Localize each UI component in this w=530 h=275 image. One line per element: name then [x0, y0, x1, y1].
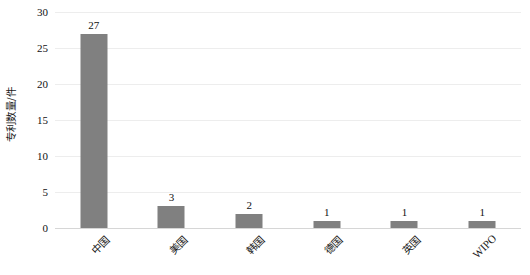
bar-value-label: 1: [479, 206, 485, 218]
y-axis-tick-labels: 051015202530: [20, 12, 52, 228]
y-tick-label: 10: [37, 150, 48, 162]
y-tick-label: 25: [37, 42, 48, 54]
y-tick-label: 0: [43, 222, 49, 234]
y-tick-label: 5: [43, 186, 49, 198]
bar-value-label: 27: [88, 19, 99, 31]
bar-group: 2: [210, 12, 288, 228]
y-tick-label: 15: [37, 114, 48, 126]
bar: [313, 221, 340, 228]
x-tick-label: 韩国: [243, 232, 268, 257]
bar: [236, 214, 263, 228]
bar-group: 1: [443, 12, 521, 228]
y-tick-label: 30: [37, 6, 48, 18]
bar-group: 27: [55, 12, 133, 228]
bar-value-label: 1: [324, 206, 330, 218]
x-tick-label: 中国: [88, 232, 113, 257]
bar-value-label: 3: [169, 191, 175, 203]
bar: [391, 221, 418, 228]
x-tick-label: 美国: [165, 232, 190, 257]
bar-group: 3: [133, 12, 211, 228]
y-tick-label: 20: [37, 78, 48, 90]
y-axis-title: 专利数量/件: [2, 0, 20, 228]
bar-group: 1: [366, 12, 444, 228]
bar-group: 1: [288, 12, 366, 228]
y-axis-title-text: 专利数量/件: [4, 86, 19, 142]
bar-chart: 专利数量/件 051015202530 2732111 中国美国韩国德国英国WI…: [0, 0, 530, 275]
bars-layer: 2732111: [55, 12, 521, 228]
bar: [469, 221, 496, 228]
x-axis-tick-labels: 中国美国韩国德国英国WIPO: [55, 228, 521, 275]
bar: [80, 34, 107, 228]
bar: [158, 206, 185, 228]
plot-area: 2732111: [55, 12, 521, 228]
x-tick-label: 英国: [398, 232, 423, 257]
x-tick-label: WIPO: [470, 232, 498, 260]
x-tick-label: 德国: [321, 232, 346, 257]
bar-value-label: 2: [246, 199, 252, 211]
bar-value-label: 1: [402, 206, 408, 218]
